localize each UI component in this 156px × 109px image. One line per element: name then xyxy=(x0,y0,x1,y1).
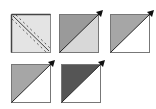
split-square-icon xyxy=(61,64,101,103)
tile-split-gray-white-2 xyxy=(11,64,51,103)
tile-split-gray-light xyxy=(59,14,99,53)
tile-dashed-diagonal xyxy=(11,14,51,53)
tile-split-dark-white xyxy=(61,64,101,103)
tile-split-gray-white xyxy=(110,14,150,53)
split-square-icon xyxy=(59,14,99,53)
dashed-diagonal-square-icon xyxy=(11,14,51,53)
split-square-icon xyxy=(11,64,51,103)
split-square-icon xyxy=(110,14,150,53)
